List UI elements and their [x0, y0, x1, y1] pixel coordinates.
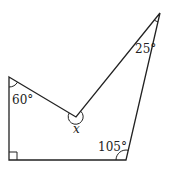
- geometry-diagram: 60° 25° 105° x: [0, 0, 170, 172]
- label-25: 25°: [135, 42, 156, 56]
- label-x: x: [73, 122, 80, 136]
- right-angle-mark: [9, 152, 17, 160]
- label-60: 60°: [12, 93, 33, 107]
- label-105: 105°: [98, 140, 127, 154]
- angle-arc-top-right: [154, 20, 158, 22]
- angle-arc-top-left: [9, 82, 18, 87]
- pentagon-outline: [9, 13, 160, 160]
